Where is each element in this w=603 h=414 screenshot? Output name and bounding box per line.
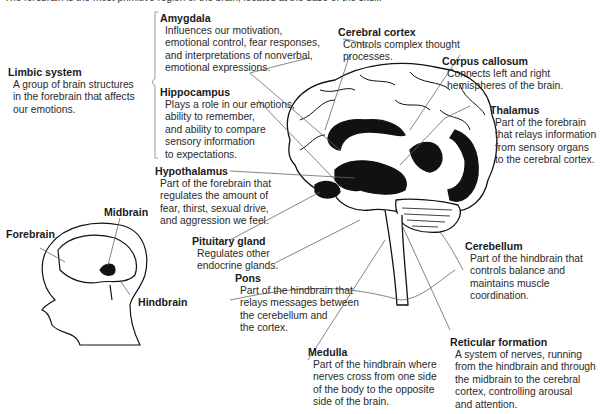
- label-forebrain: Forebrain: [6, 228, 55, 240]
- label-cerebellum: Cerebellum Part of the hindbrain that co…: [465, 240, 583, 303]
- label-amygdala: Amygdala Influences our motivation, emot…: [160, 12, 320, 75]
- label-pituitary-gland: Pituitary gland Regulates other endocrin…: [192, 235, 278, 273]
- label-medulla: Medulla Part of the hindbrain where nerv…: [308, 346, 437, 409]
- label-pons: Pons Part of the hindbrain that relays m…: [235, 272, 359, 335]
- label-hypothalamus: Hypothalamus Part of the forebrain that …: [155, 165, 271, 228]
- label-corpus-callosum: Corpus callosum Connects left and right …: [442, 55, 563, 93]
- head-illustration: [42, 223, 147, 345]
- label-limbic-system: Limbic system A group of brain structure…: [8, 66, 135, 116]
- label-hindbrain: Hindbrain: [138, 296, 187, 308]
- limbic-bracket: [152, 12, 158, 158]
- label-reticular-formation: Reticular formation A system of nerves, …: [450, 336, 596, 412]
- label-hippocampus: Hippocampus Plays a role in our emotions…: [160, 86, 295, 162]
- label-thalamus: Thalamus Part of the forebrain that rela…: [490, 104, 596, 167]
- label-midbrain: Midbrain: [104, 206, 148, 218]
